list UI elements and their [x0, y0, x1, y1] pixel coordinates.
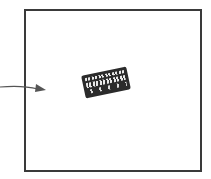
arrow-icon: [0, 80, 50, 96]
